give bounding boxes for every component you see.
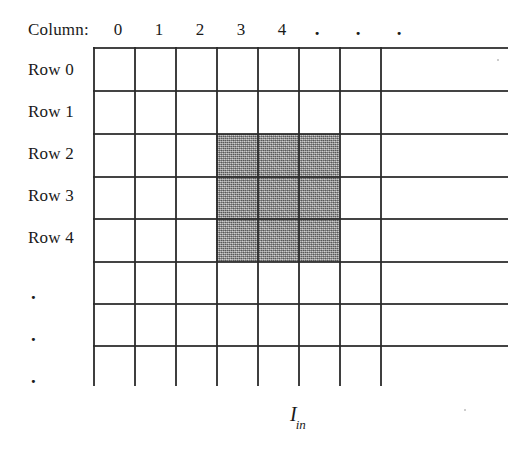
scan-speck	[497, 59, 499, 61]
column-tick-4: 4	[270, 21, 294, 38]
figure-caption: Iin	[290, 404, 307, 428]
row-label-2: Row 2	[28, 145, 74, 162]
row-label-dot-2: .	[31, 325, 36, 344]
grid-vline-4	[257, 47, 259, 386]
column-header-label: Column:	[28, 21, 89, 38]
row-label-0: Row 0	[28, 61, 74, 78]
grid-vline-5	[298, 47, 300, 386]
grid-hline-7	[93, 345, 508, 347]
column-tick-dot-1: .	[305, 19, 329, 38]
column-tick-dot-2: .	[346, 19, 370, 38]
column-tick-3: 3	[229, 21, 253, 38]
grid-hline-3	[93, 176, 508, 178]
column-tick-0: 0	[106, 21, 130, 38]
column-tick-dot-3: .	[387, 19, 411, 38]
row-label-4: Row 4	[28, 229, 74, 246]
row-label-dot-1: .	[31, 283, 36, 302]
grid-vline-0	[93, 47, 95, 386]
scan-speck	[464, 409, 466, 411]
grid-hline-1	[93, 90, 508, 92]
row-label-dot-3: .	[31, 367, 36, 386]
grid-hline-6	[93, 303, 508, 305]
grid-figure: Column: 0 1 2 3 4 . . . Row 0 Row 1 Row …	[0, 0, 530, 449]
grid-hline-4	[93, 218, 508, 220]
row-label-3: Row 3	[28, 187, 74, 204]
grid-hline-5	[93, 261, 508, 263]
grid-hline-2	[93, 133, 508, 135]
row-label-1: Row 1	[28, 103, 74, 120]
shaded-neighbourhood-region	[216, 134, 339, 262]
column-tick-1: 1	[147, 21, 171, 38]
column-tick-2: 2	[188, 21, 212, 38]
grid-vline-1	[134, 47, 136, 386]
grid-vline-7	[380, 47, 382, 386]
caption-subscript: in	[296, 417, 306, 432]
grid-hline-0	[93, 47, 508, 49]
grid-vline-3	[216, 47, 218, 386]
grid-vline-2	[175, 47, 177, 386]
grid-vline-6	[339, 47, 341, 386]
